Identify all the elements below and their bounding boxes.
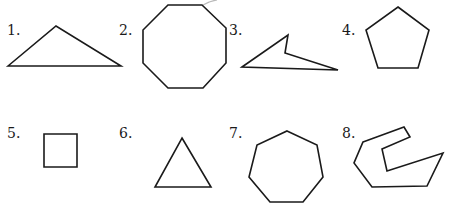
- figure-6-triangle: [155, 138, 211, 187]
- figure-5-number: 5.: [7, 126, 20, 140]
- figure-8-concave-polygon: [354, 127, 443, 187]
- figure-1-triangle: [8, 26, 121, 66]
- figure-2-octagon: [143, 5, 226, 88]
- figure-3-number: 3.: [229, 23, 242, 37]
- figure-1-number: 1.: [7, 23, 20, 37]
- figure-4-pentagon: [366, 7, 429, 68]
- figure-3-concave-quadrilateral: [242, 35, 338, 70]
- figure-6-number: 6.: [119, 126, 132, 140]
- scan-artifact: [203, 0, 217, 5]
- polygon-worksheet: 1. 2. 3. 4. 5. 6. 7. 8.: [0, 0, 450, 209]
- figure-8-number: 8.: [342, 126, 355, 140]
- figure-2-number: 2.: [119, 23, 132, 37]
- figure-7-number: 7.: [229, 126, 242, 140]
- figure-7-heptagon: [249, 131, 323, 202]
- shapes-canvas: [0, 0, 450, 209]
- figure-5-square: [44, 134, 77, 167]
- figure-4-number: 4.: [342, 23, 355, 37]
